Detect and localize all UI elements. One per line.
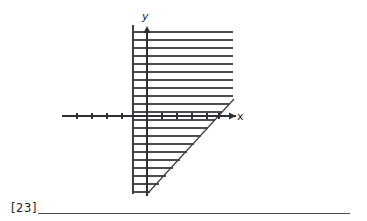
answer-blank-line[interactable]	[38, 213, 350, 214]
y-axis	[143, 26, 150, 196]
footer-answer-row: [23]	[0, 196, 367, 221]
x-axis	[62, 112, 236, 119]
x-axis-label: x	[237, 111, 244, 122]
diagonal-boundary	[148, 99, 234, 193]
worksheet-page: y x [23]	[0, 0, 367, 221]
hatch-lines-lower	[133, 120, 215, 192]
graph-figure	[0, 0, 367, 221]
y-axis-label: y	[142, 11, 149, 22]
problem-number: [23]	[0, 203, 37, 215]
hatch-lines-upper	[133, 32, 233, 112]
